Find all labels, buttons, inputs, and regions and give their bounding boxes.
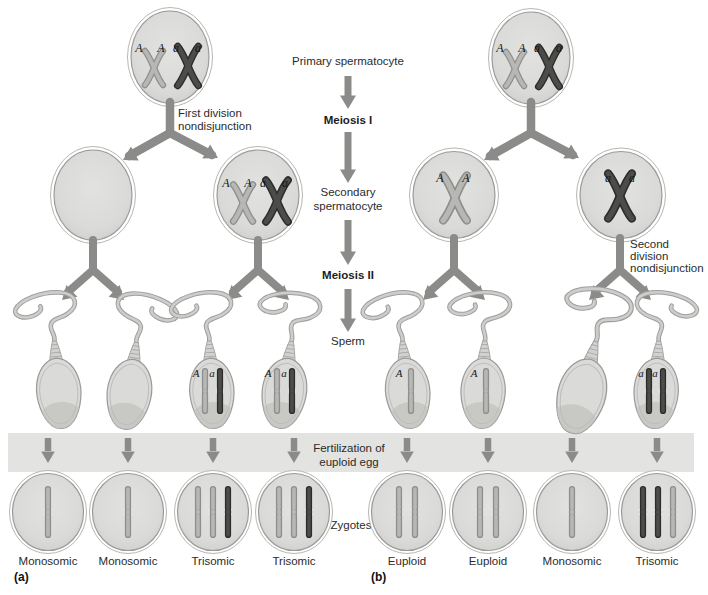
label-second-division-2: division <box>630 250 668 262</box>
zygote-label-a3: Trisomic <box>191 555 234 567</box>
allele-label: a <box>195 41 201 55</box>
sperm-a2 <box>100 291 179 438</box>
zygote-b3 <box>534 471 611 554</box>
panel-a-tag: (a) <box>14 570 29 584</box>
chromatid-A <box>396 489 402 535</box>
chromatid-A <box>408 371 414 411</box>
label-primary-spermatocyte: Primary spermatocyte <box>292 55 404 67</box>
allele-label: a <box>173 41 179 55</box>
chromatid-a <box>217 371 223 411</box>
chromatid-a <box>306 489 312 535</box>
panel-b-tag: (b) <box>371 570 386 584</box>
allele-label: A <box>470 367 478 379</box>
label-fertilization-1: Fertilization of <box>313 442 385 454</box>
cell-secondary-A-b: A A <box>410 148 499 242</box>
sperm-b2 <box>445 291 510 433</box>
zygote-a2 <box>90 471 167 554</box>
chromatid-A <box>195 489 201 535</box>
diagram-canvas: Primary spermatocyte Meiosis I Secondary… <box>0 0 708 595</box>
allele-label: A <box>192 367 200 379</box>
label-first-division-1: First division <box>178 107 242 119</box>
fork-arrow-meiosis1-b <box>480 102 583 167</box>
allele-label: a <box>629 171 635 185</box>
zygote-a3 <box>175 471 252 554</box>
zygote-b1 <box>369 471 446 554</box>
label-meiosis-1: Meiosis I <box>324 114 373 126</box>
chromatid-A <box>493 489 499 535</box>
zygote-label-a1: Monosomic <box>19 555 78 567</box>
allele-label: A <box>435 171 444 185</box>
label-meiosis-2: Meiosis II <box>322 269 374 281</box>
label-first-division-2: nondisjunction <box>178 120 252 132</box>
chromatid-A <box>276 489 282 535</box>
allele-label: A <box>221 176 230 190</box>
allele-label: a <box>209 367 215 379</box>
chromatid-A <box>274 371 280 411</box>
label-zygotes: Zygotes <box>331 519 372 531</box>
zygote-label-b2: Euploid <box>469 555 507 567</box>
allele-label: A <box>156 41 165 55</box>
sperm-b3 <box>532 281 634 444</box>
cell-secondary-a-b: a a <box>577 148 666 242</box>
fork-arrow-meiosis2-b-left <box>418 238 491 306</box>
cell-primary-spermatocyte-b: A A a a <box>489 9 574 108</box>
zygote-label-b1: Euploid <box>388 555 426 567</box>
zygote-label-a2: Monosomic <box>99 555 158 567</box>
allele-label: a <box>282 176 288 190</box>
allele-label: A <box>495 41 504 55</box>
chromatid-a <box>289 371 295 411</box>
chromatid-a <box>660 371 666 411</box>
chromatid-A <box>125 489 131 535</box>
cell-primary-spermatocyte-a: A A a a <box>128 8 213 107</box>
allele-label: a <box>534 41 540 55</box>
allele-label: a <box>605 171 611 185</box>
zygote-a4 <box>256 471 333 554</box>
allele-label: A <box>134 41 143 55</box>
allele-label: a <box>638 367 644 379</box>
cell-secondary-empty-a <box>51 147 136 244</box>
allele-label: A <box>264 367 272 379</box>
label-sperm: Sperm <box>331 335 365 347</box>
allele-label: a <box>556 41 562 55</box>
zygote-b2 <box>450 471 527 554</box>
label-second-division-3: nondisjunction <box>630 262 704 274</box>
label-second-division-1: Second <box>630 238 669 250</box>
sperm-a4 <box>243 288 322 435</box>
chromatid-a <box>225 489 231 535</box>
zygote-label-b4: Trisomic <box>635 555 678 567</box>
chromatid-A <box>670 489 676 535</box>
chromatid-A <box>202 371 208 411</box>
allele-label: A <box>461 171 470 185</box>
allele-label: A <box>243 176 252 190</box>
zygote-a1 <box>10 471 87 554</box>
sperm-b1 <box>361 290 436 435</box>
zygote-b4 <box>619 471 696 554</box>
chromatid-A <box>569 489 575 535</box>
allele-label: A <box>517 41 526 55</box>
fork-arrow-meiosis2-a-right <box>222 240 295 306</box>
cell-secondary-both-homologs-a: A A a a <box>214 147 303 244</box>
chromatid-A <box>412 489 418 535</box>
chromatid-A <box>291 489 297 535</box>
label-fertilization-2: euploid egg <box>319 456 378 468</box>
chromatid-A <box>483 371 489 411</box>
panel-b: A A a a A A a a Second division <box>361 9 704 585</box>
allele-label: A <box>395 367 403 379</box>
nondisjunction-diagram: Primary spermatocyte Meiosis I Secondary… <box>0 0 708 595</box>
zygote-label-b3: Monosomic <box>543 555 602 567</box>
label-secondary-spermatocyte-2: spermatocyte <box>313 200 382 212</box>
panel-a: A A a a First division nondisjunction A … <box>10 8 333 585</box>
allele-label: a <box>652 367 658 379</box>
chromatid-A <box>45 489 51 535</box>
chromatid-a <box>646 371 652 411</box>
allele-label: a <box>260 176 266 190</box>
chromatid-a <box>655 489 661 535</box>
allele-label: a <box>281 367 287 379</box>
chromatid-a <box>640 489 646 535</box>
chromatid-A <box>477 489 483 535</box>
sperm-a1 <box>14 291 86 435</box>
zygote-label-a4: Trisomic <box>272 555 315 567</box>
label-secondary-spermatocyte-1: Secondary <box>321 186 376 198</box>
chromatid-A <box>210 489 216 535</box>
